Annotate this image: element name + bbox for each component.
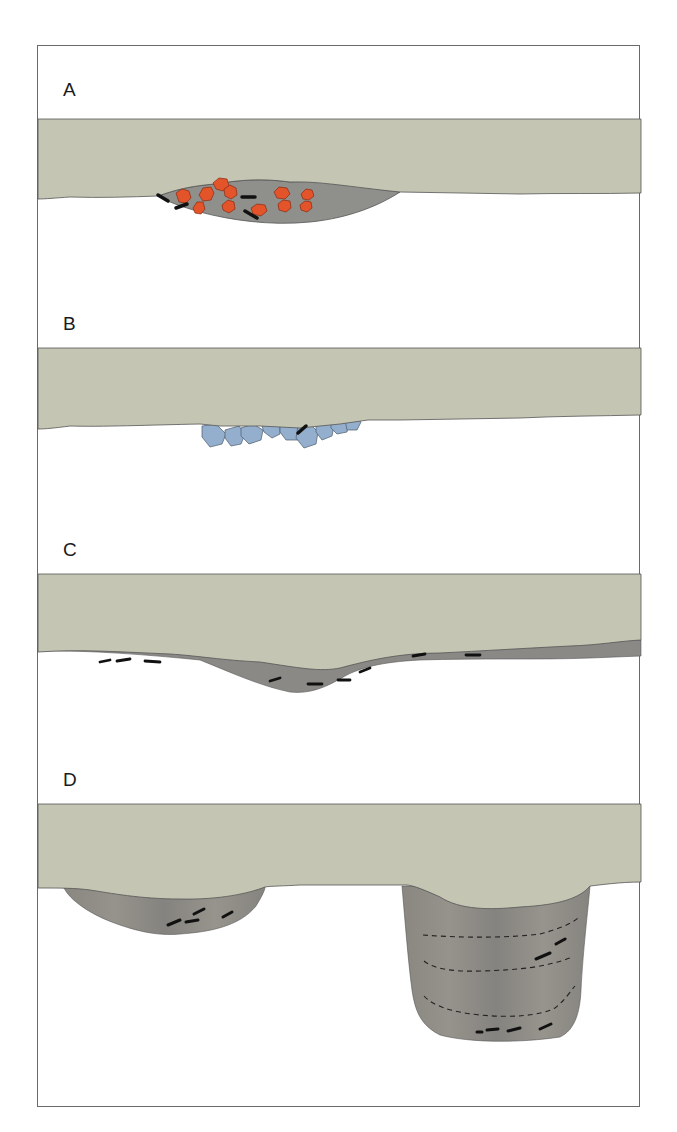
ground-layer	[38, 348, 641, 429]
panel-d	[38, 804, 641, 1041]
panel-c	[38, 574, 641, 692]
panel-a	[38, 119, 641, 223]
ground-layer	[38, 804, 641, 909]
panel-b	[38, 348, 641, 448]
deep-pit-fill	[402, 886, 590, 1041]
